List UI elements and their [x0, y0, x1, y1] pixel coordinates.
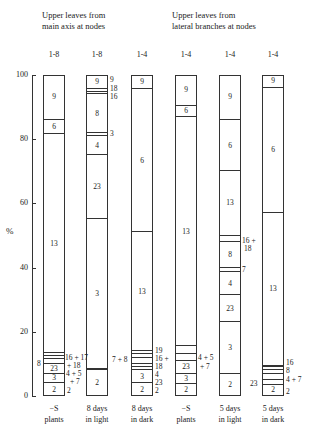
bar-segment [44, 355, 64, 358]
stacked-bar: 21369 [262, 75, 284, 396]
bar-segment [263, 379, 283, 384]
y-tick-label: 40 [2, 263, 28, 272]
category-label-line: 5 days [207, 403, 253, 414]
segment-annotation: 8 [286, 367, 290, 375]
segment-annotation: 7 + 8 [112, 356, 127, 364]
bar-segment: 9 [220, 74, 240, 119]
y-axis-label: % [6, 226, 14, 236]
category-label: 8 daysin dark [119, 403, 165, 425]
category-label: 8 daysin light [74, 403, 120, 425]
header-line: Upper leaves from [172, 10, 256, 21]
bar-segment: 23 [176, 360, 196, 373]
bar-segment: 6 [176, 105, 196, 116]
segment-annotation: + 7 [70, 378, 80, 386]
category-label-line: in dark [250, 414, 296, 425]
bar-segment [263, 369, 283, 372]
category-label-line: plants [31, 414, 77, 425]
segment-annotation: 8 [37, 360, 41, 368]
segment-annotation: 18 [244, 245, 252, 253]
bar-segment: 8 [87, 93, 107, 132]
segment-annotation: 16 [110, 93, 118, 101]
y-tick [32, 268, 36, 269]
bar-segment [87, 91, 107, 94]
y-axis [32, 75, 33, 396]
stacked-bar: 23231369 [175, 75, 197, 396]
bar-segment: 9 [132, 74, 152, 88]
node-range-label: 1-8 [34, 50, 74, 59]
bar-segment: 4 [87, 135, 107, 154]
bar-segment [220, 235, 240, 241]
bar-segment: 9 [87, 74, 107, 88]
bar-segment: 9 [44, 74, 64, 119]
header-line: lateral branches at nodes [172, 21, 256, 32]
bar-segment: 2 [87, 369, 107, 395]
bar-segment: 3 [132, 369, 152, 382]
y-tick-label: 60 [2, 198, 28, 207]
bar-segment: 3 [87, 218, 107, 367]
bar-segment [263, 373, 283, 379]
category-label-line: 5 days [250, 403, 296, 414]
category-label-line: in light [74, 414, 120, 425]
segment-annotation: + 7 [200, 363, 210, 371]
bar-segment: 13 [176, 116, 196, 346]
category-label-line: plants [163, 414, 209, 425]
y-tick-label: 100 [2, 70, 28, 79]
segment-annotation: 2 [286, 388, 290, 396]
bar-segment: 6 [132, 88, 152, 231]
category-label-line: −S [31, 403, 77, 414]
bar-segment [176, 345, 196, 353]
bar-segment: 2 [132, 382, 152, 395]
segment-annotation: 2 [155, 387, 159, 395]
bar-segment [87, 132, 107, 135]
category-label: 5 daysin dark [250, 403, 296, 425]
segment-annotation: 2 [67, 387, 71, 395]
y-tick [32, 203, 36, 204]
category-label: −Splants [163, 403, 209, 425]
bar-segment [87, 88, 107, 90]
bar-segment [132, 353, 152, 356]
bar-segment [132, 350, 152, 353]
bar-segment: 6 [220, 119, 240, 170]
segment-annotation: 4 + 5 [198, 354, 213, 362]
bar-segment: 13 [220, 170, 240, 234]
y-tick-label: 20 [2, 327, 28, 336]
segment-annotation: 9 [110, 76, 114, 84]
node-range-label: 1-4 [253, 50, 293, 59]
bar-segment: 8 [220, 241, 240, 267]
bar-segment: 6 [263, 87, 283, 212]
bar-segment [132, 363, 152, 366]
y-tick [32, 396, 36, 397]
bar-segment: 23 [220, 294, 240, 321]
segment-annotation: 3 [110, 130, 114, 138]
bar-segment [263, 365, 283, 367]
category-label-line: 8 days [74, 403, 120, 414]
bar-segment [220, 267, 240, 272]
bar-segment: 2 [176, 383, 196, 395]
category-label-line: in light [207, 414, 253, 425]
y-tick-label: 0 [2, 391, 28, 400]
bar-segment [176, 353, 196, 359]
segment-annotation: 7 [242, 266, 246, 274]
y-tick [32, 75, 36, 76]
category-label-line: −S [163, 403, 209, 414]
header-line: Upper leaves from [42, 10, 105, 21]
bar-segment: 9 [176, 74, 196, 104]
node-range-label: 1-4 [166, 50, 206, 59]
bar-segment: 13 [132, 231, 152, 350]
y-tick-label: 80 [2, 134, 28, 143]
bar-segment: 3 [220, 321, 240, 372]
bar-segment: 6 [44, 119, 64, 133]
category-label-line: in dark [119, 414, 165, 425]
bar-segment: 2 [44, 382, 64, 395]
y-tick [32, 332, 36, 333]
header-main-axis: Upper leaves from main axis at nodes [42, 10, 105, 32]
bar-segment [44, 358, 64, 363]
header-lateral: Upper leaves from lateral branches at no… [172, 10, 256, 32]
bar-segment: 23 [44, 363, 64, 373]
bar-segment [132, 366, 152, 369]
bar-segment [132, 357, 152, 363]
node-range-label: 1-4 [122, 50, 162, 59]
segment-annotation: 4 + 7 [286, 376, 301, 384]
stacked-bar: 2323481369 [219, 75, 241, 396]
y-tick [32, 139, 36, 140]
